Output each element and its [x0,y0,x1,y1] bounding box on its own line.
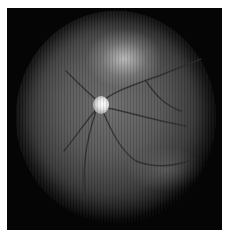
optic-disc [93,96,109,114]
retinal-vessels [16,11,216,223]
fundus-image [16,11,216,223]
image-frame [7,8,222,230]
